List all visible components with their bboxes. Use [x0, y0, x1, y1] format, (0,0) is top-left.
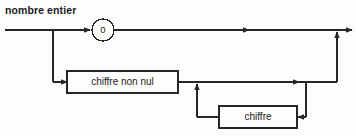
- node-label-zero: 0: [92, 24, 114, 36]
- syntax-diagram-canvas: nombre entier: [0, 0, 356, 136]
- railroad-diagram-graphic: [0, 0, 356, 136]
- node-label-chiffre: chiffre: [219, 110, 297, 124]
- node-label-chiffre-non-nul: chiffre non nul: [67, 75, 178, 89]
